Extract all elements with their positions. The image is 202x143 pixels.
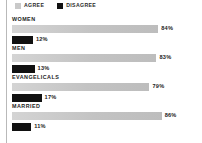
group-label: MEN bbox=[12, 46, 25, 51]
bar-group: WOMEN 84% 12% bbox=[0, 17, 202, 46]
disagree-bar-value: 17% bbox=[45, 95, 57, 101]
legend-item-agree[interactable]: AGREE bbox=[15, 1, 44, 10]
disagree-bar-value: 13% bbox=[38, 66, 50, 72]
agree-bar-value: 79% bbox=[152, 84, 164, 90]
disagree-bar[interactable] bbox=[12, 123, 31, 131]
disagree-bar-value: 11% bbox=[34, 124, 46, 130]
agree-bar-value: 86% bbox=[165, 113, 177, 119]
legend-label-disagree: DISAGREE bbox=[66, 3, 96, 8]
disagree-bar[interactable] bbox=[12, 65, 35, 73]
disagree-bar[interactable] bbox=[12, 36, 33, 44]
disagree-bar-row: 13% bbox=[12, 65, 202, 73]
legend-item-disagree[interactable]: DISAGREE bbox=[57, 1, 96, 10]
legend-swatch-disagree-icon bbox=[57, 3, 63, 9]
agree-bar-value: 84% bbox=[161, 26, 173, 32]
chart-legend: AGREE DISAGREE bbox=[15, 1, 96, 10]
legend-label-agree: AGREE bbox=[24, 3, 44, 8]
bar-groups: WOMEN 84% 12% MEN 83% 13% EVANGE bbox=[0, 17, 202, 133]
agree-bar-row: 83% bbox=[12, 54, 202, 62]
agree-bar[interactable] bbox=[12, 54, 156, 62]
legend-swatch-agree-icon bbox=[15, 3, 21, 9]
disagree-bar-value: 12% bbox=[36, 37, 48, 43]
agree-bar[interactable] bbox=[12, 112, 162, 120]
disagree-bar-row: 11% bbox=[12, 123, 202, 131]
bar-chart: AGREE DISAGREE WOMEN 84% 12% MEN 83% bbox=[0, 0, 202, 143]
disagree-bar[interactable] bbox=[12, 94, 42, 102]
group-label: EVANGELICALS bbox=[12, 75, 59, 80]
agree-bar[interactable] bbox=[12, 25, 158, 33]
disagree-bar-row: 17% bbox=[12, 94, 202, 102]
bar-group: EVANGELICALS 79% 17% bbox=[0, 75, 202, 104]
disagree-bar-row: 12% bbox=[12, 36, 202, 44]
group-label: MARRIED bbox=[12, 104, 40, 109]
bar-group: MARRIED 86% 11% bbox=[0, 104, 202, 133]
agree-bar-row: 86% bbox=[12, 112, 202, 120]
group-label: WOMEN bbox=[12, 17, 36, 22]
agree-bar-row: 79% bbox=[12, 83, 202, 91]
bar-group: MEN 83% 13% bbox=[0, 46, 202, 75]
agree-bar[interactable] bbox=[12, 83, 149, 91]
agree-bar-row: 84% bbox=[12, 25, 202, 33]
agree-bar-value: 83% bbox=[159, 55, 171, 61]
